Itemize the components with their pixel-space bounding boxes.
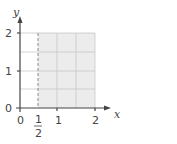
y-tick-0: 0 (5, 102, 12, 115)
shaded-region (38, 33, 95, 108)
x-tick-0: 0 (17, 114, 24, 127)
x-axis-arrow-icon (104, 106, 111, 111)
y-tick-2: 2 (5, 27, 12, 40)
y-tick-1: 1 (5, 65, 12, 78)
coordinate-plane: y x 2 1 0 0 1 2 1 2 (0, 0, 177, 144)
x-tick-half-numerator: 1 (35, 113, 42, 126)
x-axis-label: x (114, 108, 121, 121)
x-tick-1: 1 (55, 114, 62, 127)
y-axis-label: y (12, 6, 20, 19)
x-tick-half-denominator: 2 (35, 127, 42, 140)
x-tick-2: 2 (92, 114, 99, 127)
